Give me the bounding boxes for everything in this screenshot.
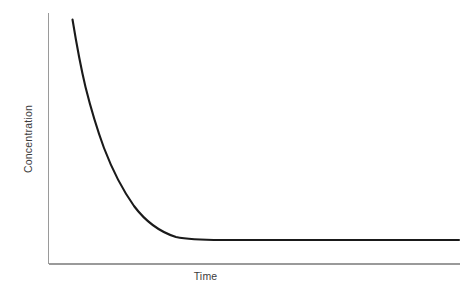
x-axis-label: Time xyxy=(0,270,411,282)
y-axis-label: Concentration xyxy=(22,69,34,209)
chart-background xyxy=(0,0,476,299)
chart-figure: Time Concentration xyxy=(0,0,476,299)
plot-area xyxy=(0,0,476,299)
